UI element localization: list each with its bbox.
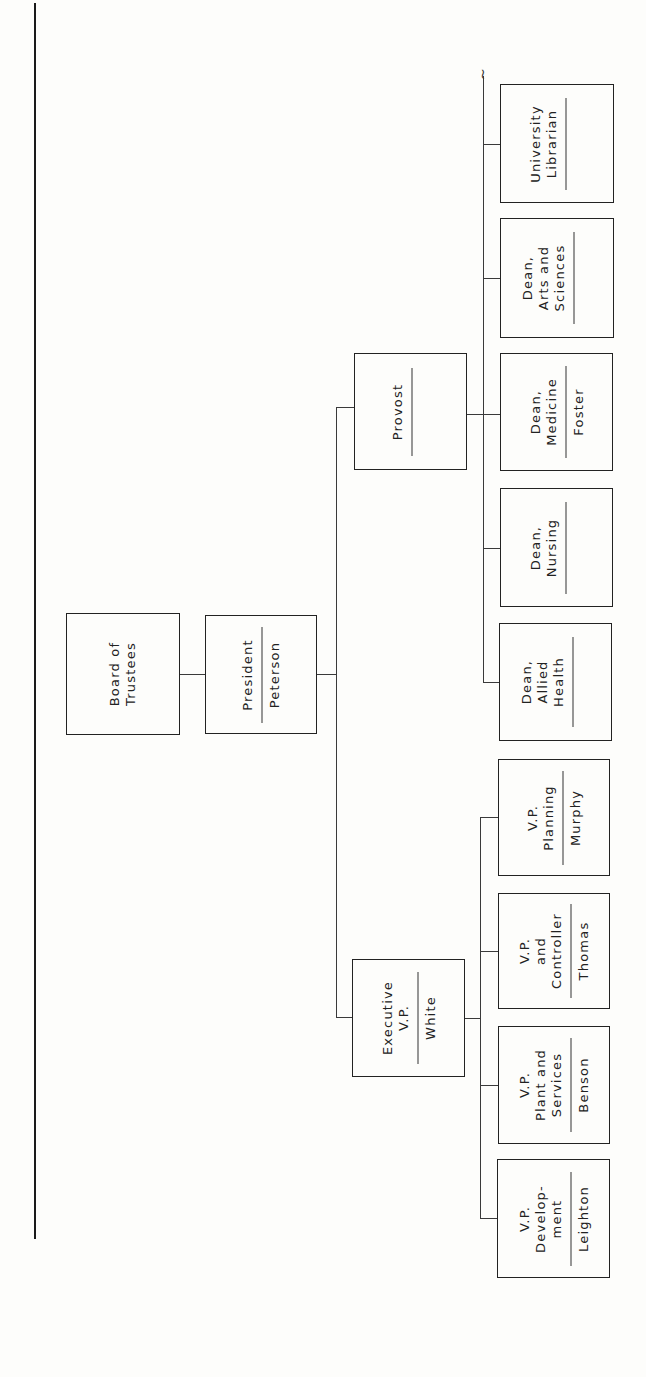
node-title: Dean, Allied Health [518,657,566,707]
node-title: Dean, Medicine [527,378,559,446]
node-divider [565,502,566,594]
trunk-provost-reports [483,76,484,683]
node-holder-name: White [422,996,438,1040]
node-title: Dean, Arts and Sciences [520,245,568,312]
node-divider [574,232,575,324]
branch-planning [480,817,498,818]
node-divider [262,627,263,723]
node-divider [411,368,412,456]
node-title: President [240,639,256,710]
node-dean-arts-sciences: Dean, Arts and Sciences [500,218,614,338]
node-holder-name: Murphy [568,789,584,845]
node-dean-allied-health: Dean, Allied Health [499,623,612,741]
node-title: V.P. and Controller [517,913,565,989]
node-provost: Provost [354,353,467,470]
branch-development [480,1218,498,1219]
node-holder-name: Peterson [267,641,283,707]
node-executive-vp: Executive V.P. White [352,959,465,1077]
branch-plant [480,1085,498,1086]
node-vp-development: V.P. Develop- ment Leighton [497,1159,610,1278]
node-holder-name: Foster [570,388,586,435]
node-board-of-trustees: Board of Trustees [66,613,180,735]
node-title: Executive V.P. [379,981,411,1055]
node-vp-plant-services: V.P. Plant and Services Benson [498,1026,610,1144]
node-divider [417,972,418,1064]
trunk-execvp-reports [480,817,481,1219]
node-president: President Peterson [205,615,317,734]
page-margin-rule [34,3,36,1239]
connector-provost-deans [467,414,483,415]
node-divider [563,771,564,865]
node-divider [571,1038,572,1132]
node-title: Dean, Nursing [527,518,559,577]
node-holder-name: Thomas [576,922,592,981]
connector-trunk-provost [336,407,354,408]
branch-controller [480,951,498,952]
branch-allied [483,682,500,683]
connector-board-president [180,674,205,675]
node-title: Board of Trustees [107,634,139,714]
branch-librarian [483,144,500,145]
node-holder-name: Leighton [575,1186,591,1252]
node-title: University Librarian [528,105,560,183]
node-divider [571,904,572,998]
branch-medicine [483,414,500,415]
node-divider [566,98,567,190]
connector-trunk-execvp [336,1017,352,1018]
connector-president-trunk [317,674,336,675]
node-divider [572,637,573,727]
node-holder-name: Benson [576,1057,592,1112]
node-title: V.P. Planning [525,785,557,851]
node-title: Provost [389,383,405,440]
trunk-president [336,407,337,1018]
node-title: V.P. Develop- ment [516,1185,564,1253]
branch-nursing [483,548,500,549]
node-vp-planning: V.P. Planning Murphy [498,759,610,876]
node-vp-controller: V.P. and Controller Thomas [498,893,610,1009]
branch-arts [483,278,500,279]
node-divider [565,366,566,458]
node-dean-nursing: Dean, Nursing [500,488,613,607]
connector-execvp-vps [465,1018,480,1019]
node-university-librarian: University Librarian [500,84,614,203]
node-divider [570,1172,571,1266]
continuation-mark: ~ [475,68,491,80]
node-title: V.P. Plant and Services [517,1049,565,1121]
node-dean-medicine: Dean, Medicine Foster [500,353,613,471]
